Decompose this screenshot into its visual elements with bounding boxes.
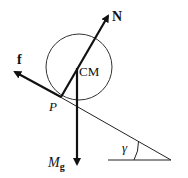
diagram-graphics bbox=[0, 0, 188, 178]
gravity-label-subscript: g bbox=[60, 161, 65, 172]
incline-line bbox=[48, 90, 171, 160]
normal-force-arrow bbox=[61, 16, 108, 97]
contact-point-label: P bbox=[49, 100, 57, 113]
gravity-label-main: M bbox=[48, 155, 60, 170]
normal-force-label: N bbox=[112, 10, 122, 24]
angle-arc bbox=[134, 142, 139, 161]
free-body-diagram: N f CM P Mg γ bbox=[0, 0, 188, 178]
friction-force-arrow bbox=[15, 72, 61, 97]
friction-force-label: f bbox=[17, 53, 22, 67]
center-of-mass-label: CM bbox=[79, 65, 99, 78]
incline-angle-label: γ bbox=[122, 141, 127, 154]
gravity-force-label: Mg bbox=[48, 156, 65, 170]
